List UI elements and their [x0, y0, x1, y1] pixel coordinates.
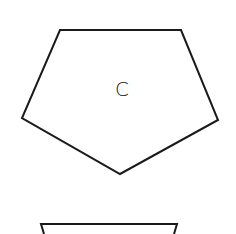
diagram-canvas: [0, 0, 236, 234]
partial-bottom-shape: [41, 224, 177, 234]
pentagon-shape-c: [22, 30, 218, 174]
pentagon-label: C: [112, 78, 132, 100]
